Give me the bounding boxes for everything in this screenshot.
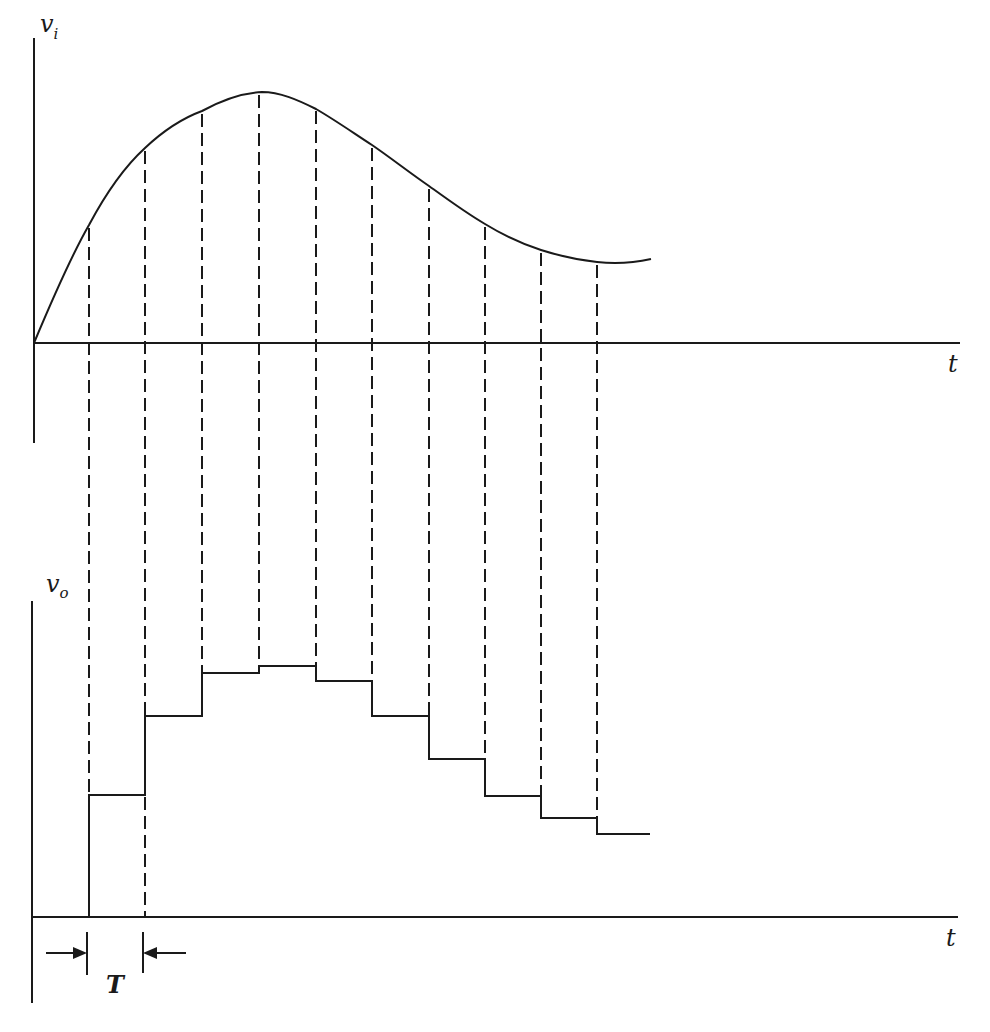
sample-instant-lines [89, 95, 597, 917]
period-label: T [106, 970, 126, 999]
held-output-staircase [89, 666, 650, 917]
vo-axis-label: vo [46, 570, 69, 602]
vo-t-axis-label: t [946, 924, 956, 952]
input-signal-plot: vi t [34, 10, 960, 443]
vi-t-axis-label: t [948, 350, 958, 378]
vi-axis-label: vi [40, 10, 59, 43]
arrow-left-icon [143, 947, 157, 959]
input-signal-curve [34, 92, 651, 343]
output-signal-plot: vo t [32, 570, 958, 1003]
sample-hold-diagram: vi t vo t T [0, 0, 990, 1032]
period-annotation: T [46, 932, 186, 999]
arrow-right-icon [73, 947, 87, 959]
